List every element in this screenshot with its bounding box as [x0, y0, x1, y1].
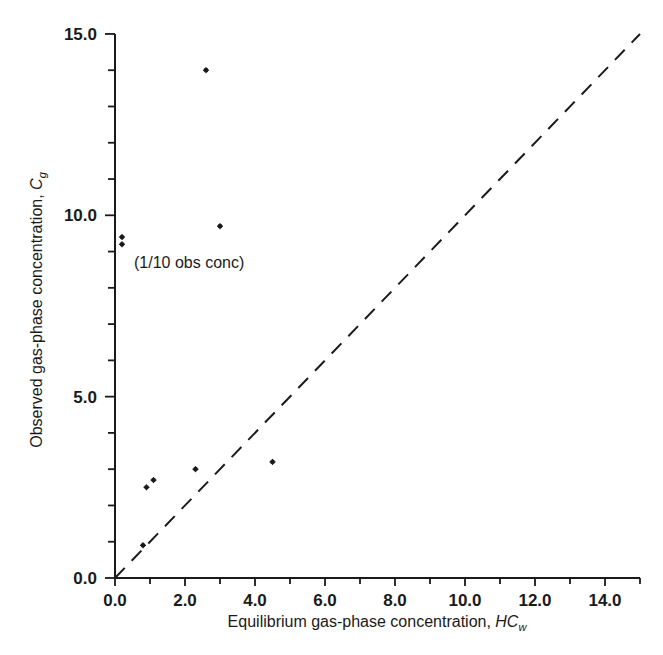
data-point-asterisk-icon — [203, 67, 209, 73]
annotation-label: (1/10 obs conc) — [134, 254, 244, 271]
x-axis-title-main: Equilibrium gas-phase concentration, — [228, 613, 496, 630]
data-point-asterisk-icon — [193, 466, 199, 472]
data-point-asterisk-icon — [119, 241, 125, 247]
x-tick-label: 2.0 — [173, 591, 197, 610]
x-tick-label: 14.0 — [588, 591, 621, 610]
x-axis-title-subscript: w — [518, 621, 527, 633]
y-tick-label: 10.0 — [64, 206, 97, 225]
y-tick-label: 15.0 — [64, 25, 97, 44]
axes — [115, 34, 640, 578]
x-axis-ticks: 0.02.04.06.08.010.012.014.0 — [103, 578, 640, 610]
x-axis-title: Equilibrium gas-phase concentration, HCw — [228, 613, 528, 633]
data-point-asterisk-icon — [140, 542, 146, 548]
x-tick-label: 4.0 — [243, 591, 267, 610]
y-axis-title: Observed gas-phase concentration, Cg — [28, 171, 48, 448]
equilibrium-reference-line — [115, 34, 640, 578]
x-tick-label: 10.0 — [448, 591, 481, 610]
x-tick-label: 6.0 — [313, 591, 337, 610]
y-tick-label: 5.0 — [73, 388, 97, 407]
y-axis-title-var: C — [28, 178, 45, 190]
y-tick-label: 0.0 — [73, 569, 97, 588]
x-axis-title-var: HC — [495, 613, 519, 630]
x-tick-label: 8.0 — [383, 591, 407, 610]
x-tick-label: 0.0 — [103, 591, 127, 610]
data-points — [119, 67, 276, 548]
y-axis-title-main: Observed gas-phase concentration, — [28, 190, 45, 448]
x-tick-label: 12.0 — [518, 591, 551, 610]
dashed-reference-line — [115, 34, 640, 578]
data-point-asterisk-icon — [144, 484, 150, 490]
data-point-asterisk-icon — [217, 223, 223, 229]
data-point-asterisk-icon — [119, 234, 125, 240]
data-point-asterisk-icon — [151, 477, 157, 483]
y-axis-ticks: 0.05.010.015.0 — [64, 25, 115, 588]
scatter-chart: 0.02.04.06.08.010.012.014.0 0.05.010.015… — [0, 0, 663, 655]
y-axis-title-subscript: g — [36, 171, 48, 178]
data-point-asterisk-icon — [270, 459, 276, 465]
